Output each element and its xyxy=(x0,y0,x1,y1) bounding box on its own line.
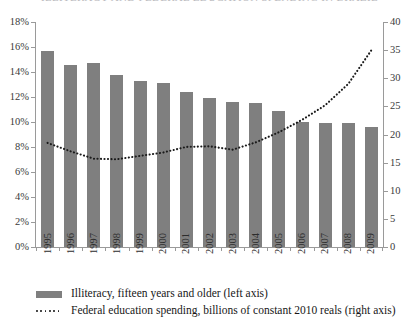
x-axis-tick-label: 2004 xyxy=(251,233,262,254)
x-axis-tick-label: 2001 xyxy=(181,233,192,254)
right-axis-tick xyxy=(384,191,388,192)
x-axis-tick-label: 1996 xyxy=(66,233,77,254)
x-axis-tick-label: 1998 xyxy=(112,233,123,254)
right-axis-tick-label: 10 xyxy=(390,186,401,197)
right-axis-tick-label: 40 xyxy=(390,17,401,28)
left-axis-tick xyxy=(31,247,35,248)
right-axis-tick-label: 25 xyxy=(390,101,401,112)
left-axis-tick xyxy=(31,97,35,98)
x-axis-tick-label: 1997 xyxy=(89,233,100,254)
left-axis-tick-label: 16% xyxy=(10,42,29,53)
right-axis-tick xyxy=(384,78,388,79)
x-axis-tick-label: 2005 xyxy=(274,233,285,254)
right-axis-tick xyxy=(384,247,388,248)
left-axis-tick-label: 2% xyxy=(15,217,29,228)
right-axis-tick xyxy=(384,219,388,220)
left-axis-tick-label: 8% xyxy=(15,142,29,153)
right-axis-tick-label: 20 xyxy=(390,129,401,140)
right-axis-tick xyxy=(384,135,388,136)
left-axis-tick-label: 12% xyxy=(10,92,29,103)
left-axis-tick xyxy=(31,147,35,148)
x-axis-labels: 1995199619971998199920002001200220032004… xyxy=(36,233,383,273)
left-axis-tick xyxy=(31,222,35,223)
right-axis-tick-label: 15 xyxy=(390,157,401,168)
page-title: ILLITERACY AND FEDERAL EDUCATION SPENDIN… xyxy=(41,0,378,3)
spending-dotted-path xyxy=(48,50,372,159)
spending-line-series xyxy=(36,22,383,247)
right-axis-tick xyxy=(384,106,388,107)
left-axis-tick xyxy=(31,47,35,48)
right-axis-tick-label: 35 xyxy=(390,45,401,56)
left-axis-tick-label: 4% xyxy=(15,192,29,203)
chart-title-strip: ILLITERACY AND FEDERAL EDUCATION SPENDIN… xyxy=(0,0,419,9)
x-axis-tick-label: 1995 xyxy=(43,233,54,254)
legend-label-illiteracy: Illiteracy, fifteen years and older (lef… xyxy=(71,288,268,300)
legend-item-spending: Federal education spending, billions of … xyxy=(36,304,419,318)
chart-legend: Illiteracy, fifteen years and older (lef… xyxy=(36,287,419,321)
left-axis-tick-label: 10% xyxy=(10,117,29,128)
x-axis-tick-label: 1999 xyxy=(135,233,146,254)
left-axis-tick xyxy=(31,197,35,198)
right-axis-tick-label: 0 xyxy=(390,242,395,253)
x-axis-tick-label: 2003 xyxy=(228,233,239,254)
left-axis-tick-label: 0% xyxy=(15,242,29,253)
legend-item-illiteracy: Illiteracy, fifteen years and older (lef… xyxy=(36,287,419,301)
x-axis-tick-label: 2007 xyxy=(320,233,331,254)
left-axis-tick-label: 6% xyxy=(15,167,29,178)
x-axis-tick-label: 2000 xyxy=(158,233,169,254)
x-axis-tick-label: 2009 xyxy=(366,233,377,254)
left-axis-tick-label: 18% xyxy=(10,17,29,28)
left-axis-tick xyxy=(31,172,35,173)
right-axis-tick xyxy=(384,22,388,23)
right-axis-tick-label: 30 xyxy=(390,73,401,84)
x-axis-tick-label: 2006 xyxy=(297,233,308,254)
left-axis-tick xyxy=(31,22,35,23)
left-axis-tick xyxy=(31,122,35,123)
plot-area: 0%2%4%6%8%10%12%14%16%18% 05101520253035… xyxy=(36,22,383,247)
right-axis-tick xyxy=(384,163,388,164)
legend-label-spending: Federal education spending, billions of … xyxy=(71,305,395,317)
chart-figure: ILLITERACY AND FEDERAL EDUCATION SPENDIN… xyxy=(0,0,419,326)
right-axis-tick-label: 5 xyxy=(390,214,395,225)
bar-swatch-icon xyxy=(36,291,62,298)
left-axis-tick-label: 14% xyxy=(10,67,29,78)
dotted-line-swatch-icon xyxy=(36,308,62,315)
left-axis-tick xyxy=(31,72,35,73)
x-axis-tick-label: 2002 xyxy=(205,233,216,254)
right-axis-tick xyxy=(384,50,388,51)
x-axis-tick-label: 2008 xyxy=(343,233,354,254)
